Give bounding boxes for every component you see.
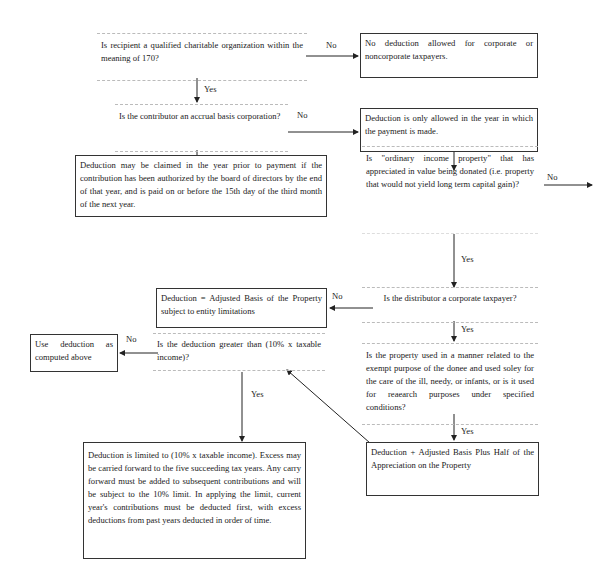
question-accrual-basis: Is the contributor an accrual basis corp… (115, 104, 288, 152)
edge-label-q6-no: No (126, 334, 137, 344)
question-property-use: Is the property used in a manner related… (362, 343, 538, 425)
result-adjusted-basis: Deduction = Adjusted Basis of the Proper… (156, 288, 327, 328)
result-prior-year-claim: Deduction may be claimed in the year pri… (75, 155, 327, 217)
edge-label-q3-no: No (547, 172, 558, 182)
edge-label-q4-no: No (332, 291, 343, 301)
edge-label-q3-yes: Yes (461, 254, 474, 264)
edge-label-q4-yes: Yes (461, 324, 474, 334)
edge-label-q1-no: No (326, 40, 337, 50)
edge-label-q5-yes: Yes (461, 426, 474, 436)
result-basis-plus-half-appreciation: Deduction + Adjusted Basis Plus Half of … (366, 442, 539, 496)
result-use-computed: Use deduction as computed above (30, 334, 118, 372)
question-corporate-taxpayer: Is the distributor a corporate taxpayer? (362, 287, 538, 323)
question-ordinary-income-property: Is "ordinary income property" that has a… (362, 146, 538, 234)
result-no-deduction: No deduction allowed for corporate or no… (360, 33, 538, 78)
arrow-r7-q6 (287, 370, 370, 443)
result-limited-10-percent: Deduction is limited to (10% x taxable i… (83, 442, 306, 559)
question-greater-than-10-percent: Is the deduction greater than (10% x tax… (153, 333, 325, 371)
edge-label-q2-no: No (297, 110, 308, 120)
edge-label-q6-yes: Yes (251, 389, 264, 399)
question-qualified-organization: Is recipient a qualified charitable orga… (97, 33, 307, 81)
edge-label-q1-yes: Yes (204, 84, 217, 94)
